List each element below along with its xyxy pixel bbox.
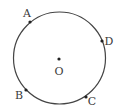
label-d: D <box>105 35 114 48</box>
point-b <box>24 88 27 91</box>
label-a: A <box>22 7 32 20</box>
circle-diagram: O A D B C <box>0 0 123 110</box>
point-d <box>100 39 103 42</box>
label-b: B <box>15 89 23 102</box>
center-point-o <box>57 57 60 60</box>
label-o: O <box>54 65 63 78</box>
point-a <box>28 20 31 23</box>
label-c: C <box>88 95 96 108</box>
